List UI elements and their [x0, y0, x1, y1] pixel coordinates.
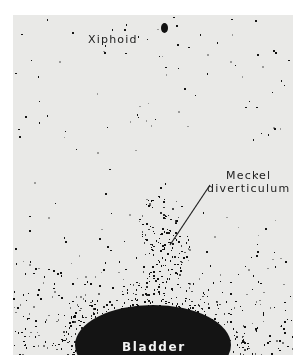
meckel-pointer-line: [13, 15, 293, 355]
bladder-label: Bladder: [122, 340, 186, 354]
scintigraphy-image: Xiphoid Meckel diverticulum Bladder: [13, 15, 293, 355]
